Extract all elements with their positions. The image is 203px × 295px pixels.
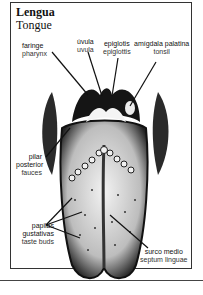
label-english: septum linguae [140, 256, 187, 264]
label-spanish: papilas [14, 222, 54, 230]
tonsil-shape [125, 101, 135, 115]
label-english: uvula [77, 46, 94, 54]
label-uvula: úvula uvula [77, 38, 94, 54]
label-spanish: surco medio [140, 248, 187, 256]
label-taste-buds: papilas gustativas taste buds [14, 222, 54, 246]
label-spanish: pilar [16, 153, 42, 161]
label-english: fauces [16, 169, 42, 177]
label-spanish: úvula [77, 38, 94, 46]
median-groove [103, 145, 104, 268]
left-pillar-shape [42, 92, 57, 175]
label-spanish: faringe [22, 42, 47, 50]
label-english: taste buds [14, 238, 54, 246]
label-fauces: pilar posterior fauces [16, 153, 42, 177]
label-spanish-line2: posterior [16, 161, 42, 169]
label-english: epiglottis [103, 48, 131, 56]
label-pharynx: faringe pharynx [22, 42, 47, 58]
right-pillar-shape [153, 92, 169, 175]
label-english: tonsil [134, 48, 189, 56]
label-english: pharynx [22, 50, 47, 58]
label-tonsil: amígdala palatina tonsil [134, 40, 189, 56]
label-spanish: amígdala palatina [134, 40, 189, 48]
label-spanish: epiglotis [103, 40, 131, 48]
label-septum-linguae: surco medio septum linguae [140, 248, 187, 264]
label-epiglottis: epiglotis epiglottis [103, 40, 131, 56]
label-spanish-line2: gustativas [14, 230, 54, 238]
title-english: Tongue [16, 18, 52, 33]
